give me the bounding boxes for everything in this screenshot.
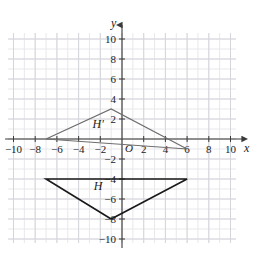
origin-label: O: [125, 142, 133, 154]
y-tick-label: −6: [104, 193, 116, 205]
shape-label-h-prime: H′: [91, 117, 104, 131]
y-tick-label: 6: [111, 73, 117, 85]
y-tick-label: −2: [104, 153, 116, 165]
y-tick-label: 2: [111, 113, 117, 125]
x-tick-label: −10: [5, 143, 23, 155]
x-tick-label: −6: [51, 143, 63, 155]
y-axis-label: y: [110, 16, 117, 30]
x-tick-label: 4: [163, 143, 169, 155]
y-tick-label: 8: [111, 53, 117, 65]
x-axis-label: x: [243, 141, 250, 155]
graph-canvas: −10−8−6−4−2246810 108642−2−4−6−8−10 O x …: [0, 0, 260, 259]
x-tick-label: 8: [206, 143, 212, 155]
shape-label-h: H: [93, 179, 104, 193]
x-tick-label: 10: [225, 143, 237, 155]
x-tick-label: −8: [29, 143, 41, 155]
x-tick-label: −4: [73, 143, 85, 155]
coordinate-plane-graph: −10−8−6−4−2246810 108642−2−4−6−8−10 O x …: [0, 0, 260, 259]
y-tick-label: 4: [111, 93, 117, 105]
y-tick-label: 10: [105, 33, 117, 45]
y-tick-label: −10: [99, 233, 117, 245]
x-tick-label: 2: [141, 143, 147, 155]
